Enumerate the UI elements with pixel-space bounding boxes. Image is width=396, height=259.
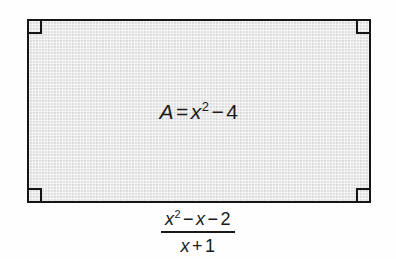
area-term-exponent: 2	[202, 99, 210, 114]
right-angle-marker-top-right-icon	[356, 21, 369, 34]
fraction-denominator: x+1	[176, 233, 219, 255]
right-angle-marker-bottom-left-icon	[29, 188, 42, 201]
area-equals-sign: =	[174, 100, 191, 123]
area-term-base-x: x	[191, 100, 202, 123]
numerator-constant-2: 2	[221, 209, 232, 229]
fraction-expression: x2−x−2 x+1	[0, 210, 396, 255]
area-rectangle-shape: A=x2−4	[27, 19, 371, 203]
numerator-minus-sign-1: −	[181, 209, 196, 229]
numerator-minus-sign-2: −	[206, 209, 221, 229]
denominator-constant-1: 1	[205, 236, 216, 256]
area-formula-label: A=x2−4	[29, 101, 369, 122]
right-angle-marker-top-left-icon	[29, 21, 42, 34]
right-angle-marker-bottom-right-icon	[356, 188, 369, 201]
area-variable-A: A	[160, 100, 175, 123]
diagram-canvas: A=x2−4 x2−x−2 x+1	[0, 0, 396, 259]
fraction-numerator: x2−x−2	[161, 210, 235, 231]
numerator-base-x: x	[165, 209, 175, 229]
denominator-plus-sign: +	[190, 236, 205, 256]
area-minus-sign: −	[210, 100, 227, 123]
fraction-stack: x2−x−2 x+1	[161, 210, 235, 255]
area-constant-4: 4	[226, 100, 238, 123]
denominator-term-x: x	[180, 236, 190, 256]
numerator-term-x: x	[196, 209, 206, 229]
